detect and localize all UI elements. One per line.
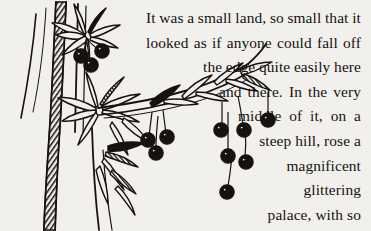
word: it [352, 6, 361, 31]
word: edge [226, 55, 255, 80]
upper-berry-cluster [74, 40, 109, 72]
word: it, [310, 104, 323, 129]
passage-line-3: the edge quite easily here [146, 55, 361, 80]
word: as [194, 31, 207, 56]
word: very [333, 80, 361, 105]
word: that [325, 6, 348, 31]
stem-main-vertical-inner [55, 2, 66, 230]
word: a [354, 104, 361, 129]
middle-leaf-whorl [58, 72, 140, 145]
word: if [212, 31, 222, 56]
word: here [334, 55, 361, 80]
stem-hatched-band [44, 2, 66, 230]
story-passage: It was a small land, so small that it lo… [146, 6, 361, 231]
stem-main-vertical-outline [44, 2, 56, 230]
berry [95, 44, 109, 58]
stem-thin-left [21, 14, 36, 118]
word: was [159, 6, 183, 31]
word: middle [238, 104, 281, 129]
word: the [203, 55, 222, 80]
passage-line-8: glittering [146, 178, 361, 203]
word: quite [259, 55, 290, 80]
stem-secondary-left [33, 8, 46, 112]
word: could [277, 31, 312, 56]
word: the [308, 80, 327, 105]
passage-line-5: middle of it, on a [146, 104, 361, 129]
passage-line-2: looked as if anyone could fall off [146, 31, 361, 56]
word: many [208, 227, 243, 231]
stem-right-vertical-2 [83, 6, 86, 134]
passage-line-1: It was a small land, so small that it [146, 6, 361, 31]
word: looked [146, 31, 189, 56]
stem-right-vertical [75, 4, 78, 132]
passage-line-7: magnificent [146, 154, 361, 179]
passage-line-6: steep hill, rose a [146, 129, 361, 154]
word: and [219, 80, 242, 105]
word: small [198, 6, 232, 31]
word: thousands [299, 227, 361, 231]
passage-line-9: palace, with so [146, 203, 361, 228]
word: on [331, 104, 347, 129]
illustrated-text-page: It was a small land, so small that it lo… [0, 0, 371, 231]
word: so [270, 6, 284, 31]
word: off [343, 31, 361, 56]
word: a [187, 6, 194, 31]
word: In [289, 80, 302, 105]
stems-group [21, 2, 66, 230]
word: fall [317, 31, 338, 56]
word: It [146, 6, 156, 31]
passage-line-4: and there. In the very [146, 80, 361, 105]
word: land, [235, 6, 266, 31]
word: there. [248, 80, 283, 105]
word: anyone [227, 31, 272, 56]
stems-group-right [75, 4, 112, 230]
stem-lower-vertical-2 [103, 150, 112, 230]
lower-leaf-spray [96, 142, 144, 215]
passage-line-10: many thousands [146, 227, 361, 231]
word: of [289, 104, 302, 129]
upper-leaf-whorl [52, 4, 120, 70]
word: small [287, 6, 321, 31]
word: easily [294, 55, 331, 80]
berry [74, 49, 88, 63]
berry [84, 58, 98, 72]
stem-lower-vertical [92, 128, 99, 230]
